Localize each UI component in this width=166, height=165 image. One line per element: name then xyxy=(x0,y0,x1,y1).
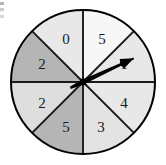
sector-label: 4 xyxy=(120,95,128,111)
sector-label: 0 xyxy=(62,31,70,47)
spinner-hub xyxy=(80,79,87,86)
spinner-figure: 51435220 xyxy=(0,0,166,165)
spinner-wheel[interactable]: 51435220 xyxy=(0,0,166,165)
sector-label: 5 xyxy=(98,31,106,47)
sector-label: 2 xyxy=(38,56,46,72)
sector-label: 2 xyxy=(38,95,46,111)
sector-label: 3 xyxy=(97,119,105,135)
sector-label: 5 xyxy=(62,119,70,135)
